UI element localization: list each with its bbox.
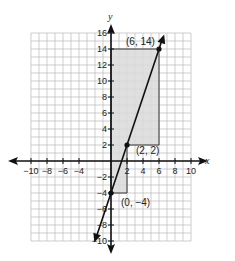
y-tick-label: 16 [97, 28, 107, 38]
y-tick-label: 10 [97, 76, 107, 86]
y-tick-label: −4 [97, 188, 107, 198]
x-tick-label: −6 [58, 166, 68, 176]
x-tick-label: −10 [23, 166, 38, 176]
y-tick-label: 6 [102, 108, 107, 118]
data-point [156, 46, 161, 51]
y-tick-label: 12 [97, 60, 107, 70]
point-label: (6, 14) [126, 36, 155, 47]
x-tick-label: 2 [124, 166, 129, 176]
shaded-rect [111, 49, 159, 145]
y-axis-label: y [107, 11, 113, 22]
x-axis-label: x [204, 155, 210, 166]
y-tick-label: 14 [97, 44, 107, 54]
axes [8, 24, 208, 254]
chart-svg: −10−8−6−4246810161412108642−2−4−6−8−10 (… [0, 0, 235, 261]
data-point [124, 142, 129, 147]
y-tick-label: 2 [102, 140, 107, 150]
data-point [108, 190, 113, 195]
point-label: (0, −4) [121, 197, 150, 208]
x-tick-label: 4 [140, 166, 145, 176]
y-tick-label: 4 [102, 124, 107, 134]
y-tick-label: 8 [102, 92, 107, 102]
x-tick-label: −8 [42, 166, 52, 176]
x-tick-label: 6 [156, 166, 161, 176]
x-tick-label: −4 [74, 166, 84, 176]
y-tick-label: −2 [97, 172, 107, 182]
x-tick-label: 8 [172, 166, 177, 176]
point-label: (2, 2) [136, 145, 159, 156]
x-tick-label: 10 [186, 166, 196, 176]
coordinate-plane: −10−8−6−4246810161412108642−2−4−6−8−10 (… [0, 0, 235, 261]
